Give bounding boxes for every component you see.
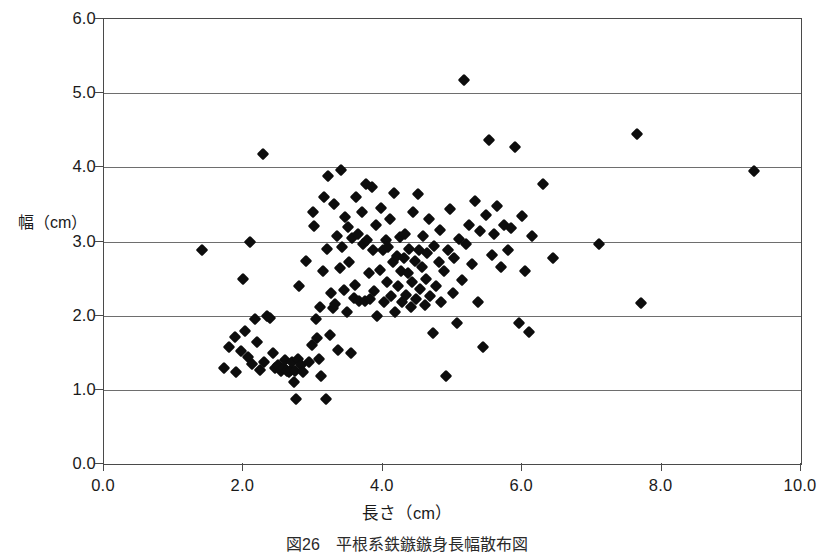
figure-caption: 図26 平根系鉄鏃鏃身長幅散布図 (0, 531, 814, 555)
data-point (460, 238, 473, 251)
y-tick-label: 1.0 (54, 381, 96, 398)
data-point (634, 297, 647, 310)
y-tick-mark (95, 166, 103, 167)
data-point (371, 309, 384, 322)
data-point (316, 265, 329, 278)
x-tick-mark (242, 463, 243, 471)
data-point (546, 251, 559, 264)
y-tick-label: 0.0 (54, 455, 96, 472)
gridline-y-2.0 (104, 316, 801, 317)
y-axis-title: 幅（cm） (18, 209, 87, 233)
data-point (328, 198, 341, 211)
gridline-y-5.0 (104, 93, 801, 94)
data-point (374, 263, 387, 276)
x-tick-label: 4.0 (347, 477, 417, 494)
data-point (307, 205, 320, 218)
data-point (466, 257, 479, 270)
data-point (337, 284, 350, 297)
x-tick-label: 0.0 (68, 477, 138, 494)
x-tick-label: 6.0 (486, 477, 556, 494)
data-point (300, 254, 313, 267)
data-point (308, 220, 321, 233)
data-point (257, 148, 270, 161)
y-axis-labels: 0.01.02.03.04.05.06.0 (48, 0, 96, 545)
data-point (407, 205, 420, 218)
data-point (420, 272, 433, 285)
data-point (477, 340, 490, 353)
data-point (482, 134, 495, 147)
x-tick-mark (661, 463, 662, 471)
data-point (488, 228, 501, 241)
data-point (332, 343, 345, 356)
data-point (230, 366, 243, 379)
x-tick-label: 10.0 (765, 477, 821, 494)
y-tick-label: 5.0 (54, 84, 96, 101)
data-point (369, 219, 382, 232)
data-point (434, 223, 447, 236)
plot-area (103, 18, 802, 465)
y-tick-label: 4.0 (54, 158, 96, 175)
data-point (427, 326, 440, 339)
data-point (443, 202, 456, 215)
data-point (450, 317, 463, 330)
x-tick-mark (521, 463, 522, 471)
data-point (293, 280, 306, 293)
data-point (411, 188, 424, 201)
data-point (315, 370, 328, 383)
data-point (349, 278, 362, 291)
data-point (195, 243, 208, 256)
data-point (516, 210, 529, 223)
data-point (485, 248, 498, 261)
data-point (513, 317, 526, 330)
data-point (237, 272, 250, 285)
data-point (344, 346, 357, 359)
data-point (480, 208, 493, 221)
gridline-y-1.0 (104, 390, 801, 391)
x-tick-label: 8.0 (626, 477, 696, 494)
x-axis-title: 長さ（cm） (0, 500, 814, 524)
data-point (335, 163, 348, 176)
data-point (446, 287, 459, 300)
x-tick-mark (800, 463, 801, 471)
data-point (526, 229, 539, 242)
data-point (290, 392, 303, 405)
data-point (319, 393, 332, 406)
data-point (491, 200, 504, 213)
x-tick-label: 2.0 (207, 477, 277, 494)
data-point (471, 296, 484, 309)
data-point (457, 73, 470, 86)
data-point (495, 260, 508, 273)
y-tick-mark (95, 463, 103, 464)
data-point (439, 370, 452, 383)
data-point (631, 128, 644, 141)
data-point (592, 237, 605, 250)
y-tick-mark (95, 18, 103, 19)
data-point (383, 213, 396, 226)
data-point (266, 346, 279, 359)
data-point (356, 205, 369, 218)
data-point (251, 336, 264, 349)
gridline-y-4.0 (104, 167, 801, 168)
data-point (422, 213, 435, 226)
data-point (350, 191, 363, 204)
data-point (417, 229, 430, 242)
data-point (322, 170, 335, 183)
y-tick-label: 6.0 (54, 10, 96, 27)
gridline-y-3.0 (104, 242, 801, 243)
data-point (456, 274, 469, 287)
y-tick-mark (95, 315, 103, 316)
data-point (375, 202, 388, 215)
data-point (321, 243, 334, 256)
y-tick-mark (95, 241, 103, 242)
data-point (523, 326, 536, 339)
data-point (244, 235, 257, 248)
y-tick-mark (95, 389, 103, 390)
data-point (502, 244, 515, 257)
data-point (537, 178, 550, 191)
data-point (435, 296, 448, 309)
data-point (336, 241, 349, 254)
data-point (310, 312, 323, 325)
data-point (323, 329, 336, 342)
y-tick-label: 3.0 (54, 232, 96, 249)
